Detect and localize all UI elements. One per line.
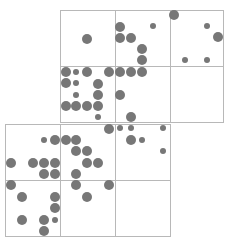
large-dot [93, 90, 103, 100]
large-dot [104, 124, 114, 134]
large-dot [61, 78, 71, 88]
large-dot [213, 32, 223, 42]
large-dot [137, 67, 147, 77]
small-dot [73, 92, 79, 98]
grid-cell [171, 67, 224, 123]
large-dot [93, 101, 103, 111]
large-dot [82, 192, 92, 202]
small-dot [182, 57, 188, 63]
large-dot [126, 135, 136, 145]
small-dot [204, 57, 210, 63]
large-dot [6, 180, 16, 190]
large-dot [104, 67, 114, 77]
large-dot [93, 158, 103, 168]
small-dot [95, 114, 101, 120]
small-dot [160, 125, 166, 131]
small-dot [41, 137, 47, 143]
large-dot [39, 158, 49, 168]
large-dot [71, 101, 81, 111]
grid-cells [6, 11, 224, 237]
large-dot [126, 112, 136, 122]
large-dot [39, 215, 49, 225]
large-dot [61, 67, 71, 77]
large-dot [17, 192, 27, 202]
large-dot [50, 169, 60, 179]
large-dot [104, 180, 114, 190]
large-dot [115, 33, 125, 43]
large-dot [17, 215, 27, 225]
large-dot [169, 10, 179, 20]
large-dot [50, 203, 60, 213]
large-dot [28, 158, 38, 168]
large-dot [82, 158, 92, 168]
small-dot [128, 125, 134, 131]
grid-cell [116, 181, 171, 237]
small-dot [139, 137, 145, 143]
small-dot [52, 217, 58, 223]
large-dot [93, 79, 103, 89]
large-dot [126, 67, 136, 77]
large-dot [71, 169, 81, 179]
small-dot [150, 23, 156, 29]
large-dot [82, 34, 92, 44]
small-dot [73, 80, 79, 86]
large-dot [115, 22, 125, 32]
large-dot [61, 101, 71, 111]
large-dot [82, 67, 92, 77]
large-dot [115, 67, 125, 77]
small-dot [117, 125, 123, 131]
large-dot [71, 180, 81, 190]
large-dot [137, 55, 147, 65]
large-dot [50, 135, 60, 145]
large-dot [71, 146, 81, 156]
large-dot [50, 192, 60, 202]
large-dot [39, 169, 49, 179]
small-dot [73, 69, 79, 75]
large-dot [39, 226, 49, 236]
large-dot [6, 158, 16, 168]
small-dot [160, 148, 166, 154]
large-dot [82, 146, 92, 156]
large-dot [115, 90, 125, 100]
large-dot [126, 33, 136, 43]
dot-grid-diagram [0, 0, 225, 242]
small-dot [204, 23, 210, 29]
large-dot [82, 101, 92, 111]
large-dot [61, 135, 71, 145]
large-dot [50, 158, 60, 168]
large-dot [71, 135, 81, 145]
large-dot [137, 44, 147, 54]
